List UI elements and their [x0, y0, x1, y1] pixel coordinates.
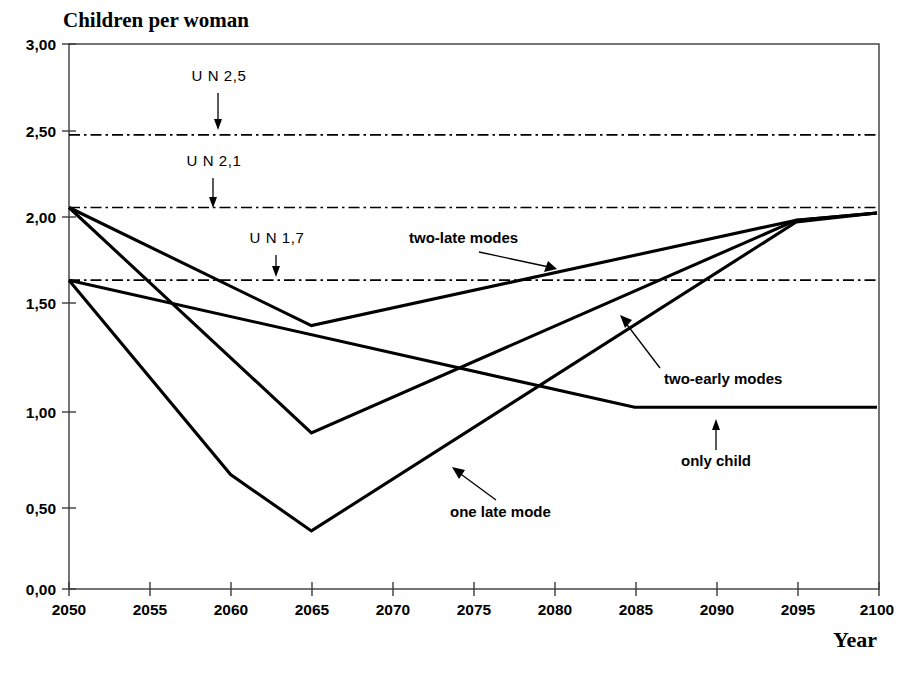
reference-label: U N 2,1	[186, 152, 241, 169]
chart-page: Children per woman 3,00 2,50 2,00 1,50 1…	[0, 0, 911, 674]
annotation-label: two-late modes	[409, 229, 518, 246]
annotation-one-late-mode: one late mode	[450, 467, 551, 520]
x-tick-label: 2100	[860, 601, 894, 618]
arrow-line	[479, 252, 549, 267]
x-axis-tick-labels: 2050 2055 2060 2065 2070 2075 2080 2085 …	[52, 601, 894, 618]
y-tick-label: 2,50	[26, 123, 56, 140]
annotation-label: two-early modes	[664, 370, 782, 387]
x-tick-label: 2075	[457, 601, 492, 618]
x-tick-label: 2060	[214, 601, 248, 618]
x-tick-label: 2085	[619, 601, 654, 618]
annotation-only-child: only child	[681, 419, 751, 469]
annotation-two-early-modes: two-early modes	[620, 315, 782, 387]
reference-annotation-un17: U N 1,7	[249, 229, 304, 277]
x-tick-label: 2090	[700, 601, 734, 618]
arrow-line	[625, 322, 660, 368]
x-tick-label: 2080	[538, 601, 572, 618]
chart-title: Children per woman	[63, 8, 249, 32]
y-tick-label: 1,50	[26, 295, 56, 312]
y-tick-label: 2,00	[26, 209, 56, 226]
arrow-head-icon	[272, 266, 280, 277]
reference-label: U N 1,7	[249, 229, 304, 246]
y-tick-label: 0,50	[26, 500, 56, 517]
reference-annotation-un21: U N 2,1	[186, 152, 241, 208]
annotation-label: one late mode	[450, 503, 551, 520]
y-tick-label: 0,00	[26, 581, 56, 598]
annotation-two-late-modes: two-late modes	[409, 229, 557, 272]
line-chart: Children per woman 3,00 2,50 2,00 1,50 1…	[0, 0, 911, 674]
x-tick-label: 2050	[52, 601, 86, 618]
annotation-label: only child	[681, 452, 751, 469]
arrow-head-icon	[209, 197, 217, 208]
arrow-head-icon	[214, 119, 222, 130]
series-only-child	[69, 280, 877, 407]
reference-annotation-un25: U N 2,5	[191, 67, 246, 130]
x-tick-label: 2070	[376, 601, 410, 618]
arrow-head-icon	[452, 467, 465, 479]
reference-label: U N 2,5	[191, 67, 246, 84]
y-tick-label: 3,00	[26, 36, 56, 53]
arrow-head-icon	[712, 419, 720, 430]
x-tick-label: 2065	[295, 601, 330, 618]
x-axis-label: Year	[833, 627, 877, 652]
y-axis-tick-labels: 3,00 2,50 2,00 1,50 1,00 0,50 0,00	[26, 36, 56, 598]
y-tick-label: 1,00	[26, 404, 56, 421]
arrow-line	[458, 472, 496, 500]
x-tick-label: 2095	[781, 601, 816, 618]
x-tick-label: 2055	[133, 601, 168, 618]
